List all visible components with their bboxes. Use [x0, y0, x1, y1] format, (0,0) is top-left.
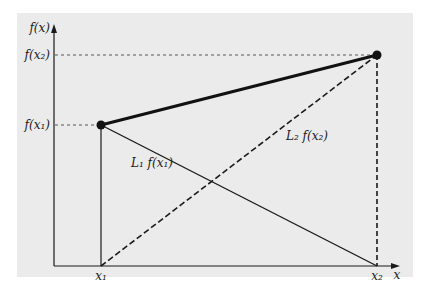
x-tick-x1: x₁: [95, 269, 107, 283]
point-p1: [97, 121, 106, 130]
y-tick-f-x2: f(x₂): [24, 48, 51, 62]
x-tick-x2: x₂: [371, 269, 383, 283]
y-tick-f-x1: f(x₁): [24, 118, 51, 132]
y-axis-label: f(x): [28, 21, 50, 35]
l1-annotation: L₁ f(x₁): [130, 156, 173, 170]
point-p2: [373, 51, 382, 60]
lagrange-interpolation-diagram: f(x) f(x₂) f(x₁) x₁ x₂ x L₁ f(x₁) L₂ f(x…: [0, 0, 430, 301]
l2-annotation: L₂ f(x₂): [285, 129, 328, 143]
x-axis-label: x: [394, 268, 401, 282]
plot-background: [17, 13, 413, 277]
